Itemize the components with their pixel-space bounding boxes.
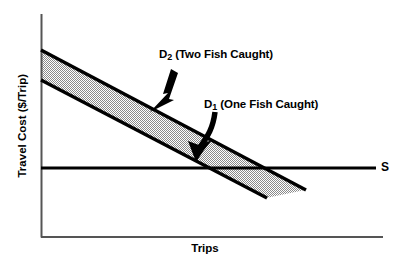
d2-arrow: [150, 69, 178, 112]
chart-canvas: [0, 0, 410, 267]
d1-prefix: D: [204, 98, 212, 110]
demand-curve-d2-label: D2 (Two Fish Caught): [159, 49, 273, 62]
supply-curve-label: S: [381, 161, 389, 173]
demand-curve-d1-label: D1 (One Fish Caught): [204, 99, 318, 112]
x-axis-label: Trips: [0, 243, 410, 255]
travel-cost-demand-figure: D2 (Two Fish Caught) D1 (One Fish Caught…: [0, 0, 410, 267]
d2-prefix: D: [159, 48, 167, 60]
y-axis-label: Travel Cost ($/Trip): [17, 51, 29, 201]
d2-text: (Two Fish Caught): [172, 48, 273, 60]
d1-text: (One Fish Caught): [217, 98, 318, 110]
